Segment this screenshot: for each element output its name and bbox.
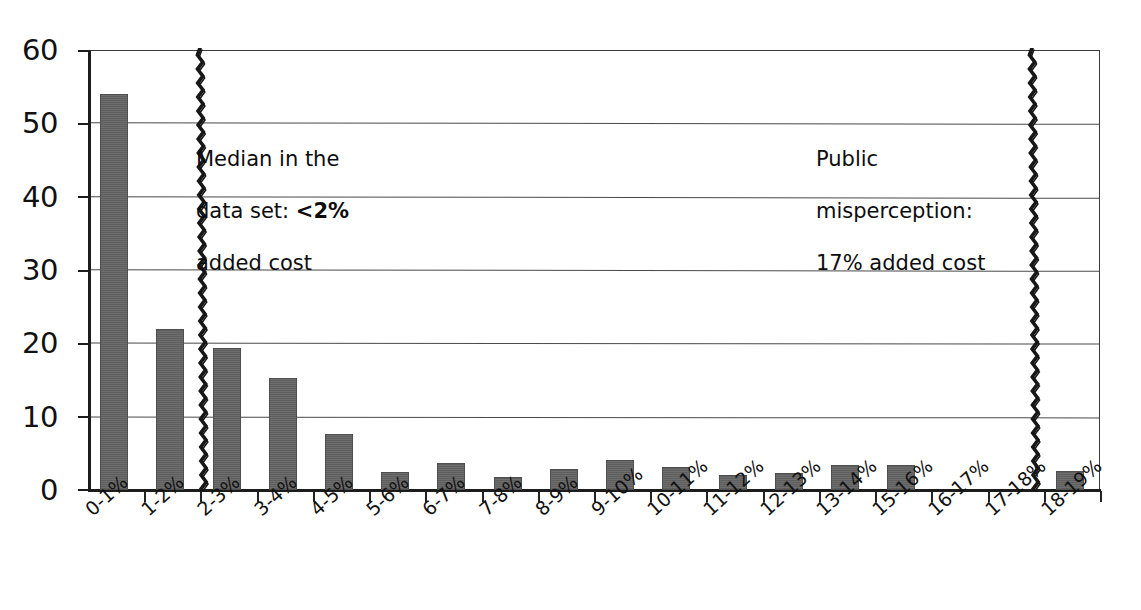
median-annotation-line-2-prefix: data set:	[196, 199, 296, 223]
histogram-chart: 60 50 40 30 20 10 0 0-1%1-2%2-3%3-4%4-5%…	[0, 0, 1141, 610]
public-annotation-line-3: 17% added cost	[816, 250, 985, 276]
y-axis-label-0: 0	[0, 476, 58, 505]
y-axis-label-10: 10	[0, 403, 58, 432]
y-axis-label-20: 20	[0, 329, 58, 358]
median-annotation-value: <2%	[296, 199, 349, 223]
bar-0-to-1	[100, 94, 128, 490]
median-annotation-line-1: Median in the	[196, 146, 349, 172]
public-annotation-line-1: Public	[816, 146, 985, 172]
bar-2-to-3	[213, 348, 241, 490]
median-annotation-line-2: data set: <2%	[196, 198, 349, 224]
y-axis-label-30: 30	[0, 256, 58, 285]
bar-1-to-2	[156, 329, 184, 490]
public-annotation-line-2: misperception:	[816, 198, 985, 224]
x-tick-mark	[1100, 491, 1102, 502]
y-axis-label-40: 40	[0, 183, 58, 212]
median-annotation-line-3: added cost	[196, 250, 349, 276]
y-axis-label-60: 60	[0, 36, 58, 65]
public-misperception-annotation: Public misperception: 17% added cost	[816, 120, 985, 302]
y-axis-label-50: 50	[0, 109, 58, 138]
median-annotation: Median in the data set: <2% added cost	[196, 120, 349, 302]
